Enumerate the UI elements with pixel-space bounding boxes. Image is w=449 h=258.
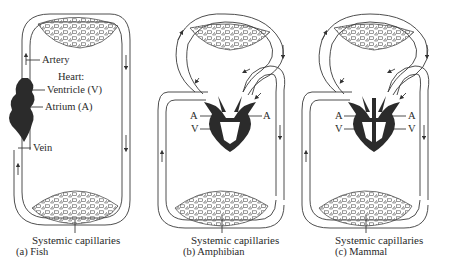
amphibian-circulation xyxy=(158,14,285,233)
amphibian-atrium-right-label: A xyxy=(263,111,271,122)
fish-ventricle-label: Ventricle (V) xyxy=(47,85,102,96)
fish-artery-label: Artery xyxy=(42,55,69,66)
fish-capillaries-label: Systemic capillaries xyxy=(32,235,120,246)
amphibian-heart xyxy=(204,96,256,152)
mammal-ventricle-right-label: V xyxy=(408,124,416,135)
mammal-atrium-left-label: A xyxy=(335,111,343,122)
amphibian-atrium-left-label: A xyxy=(190,111,198,122)
fish-vein-label: Vein xyxy=(33,143,52,154)
amphibian-ventricle-label: V xyxy=(191,124,199,135)
fish-caption: (a) Fish xyxy=(16,247,48,258)
mammal-ventricle-left-label: V xyxy=(335,124,343,135)
mammal-capillaries-label: Systemic capillaries xyxy=(335,235,423,246)
amphibian-caption: (b) Amphibian xyxy=(183,247,245,258)
mammal-caption: (c) Mammal xyxy=(335,247,387,258)
mammal-heart xyxy=(348,96,400,152)
fish-heart xyxy=(9,78,35,142)
amphibian-capillaries-label: Systemic capillaries xyxy=(191,235,279,246)
mammal-atrium-right-label: A xyxy=(408,111,416,122)
fish-heart-label: Heart: xyxy=(58,72,84,83)
fish-atrium-label: Atrium (A) xyxy=(45,102,93,113)
